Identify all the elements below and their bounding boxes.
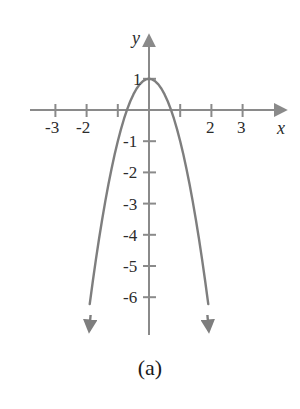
y-tick-label-neg4: -4 xyxy=(123,227,137,244)
x-tick-label-neg3: -3 xyxy=(45,119,59,136)
x-axis-label: x xyxy=(277,119,285,137)
x-tick-label-neg2: -2 xyxy=(76,119,90,136)
y-tick-label-neg1: -1 xyxy=(123,133,137,150)
y-axis-label: y xyxy=(132,29,140,47)
y-tick-label-neg6: -6 xyxy=(123,289,137,306)
parabola-plot xyxy=(0,0,300,409)
x-tick-label-3: 3 xyxy=(237,119,246,136)
y-tick-label-neg3: -3 xyxy=(123,196,137,213)
curve-left-arrowhead xyxy=(89,315,90,331)
y-tick-label-neg5: -5 xyxy=(123,258,137,275)
x-tick-label-2: 2 xyxy=(206,119,215,136)
y-tick-label-neg2: -2 xyxy=(123,164,137,181)
y-tick-label-1: 1 xyxy=(133,71,142,88)
figure-panel: y x -3 -2 2 3 1 -1 -2 -3 -4 -5 -6 (a) xyxy=(0,0,300,409)
figure-caption: (a) xyxy=(0,357,300,379)
curve-right-arrowhead xyxy=(207,315,208,331)
